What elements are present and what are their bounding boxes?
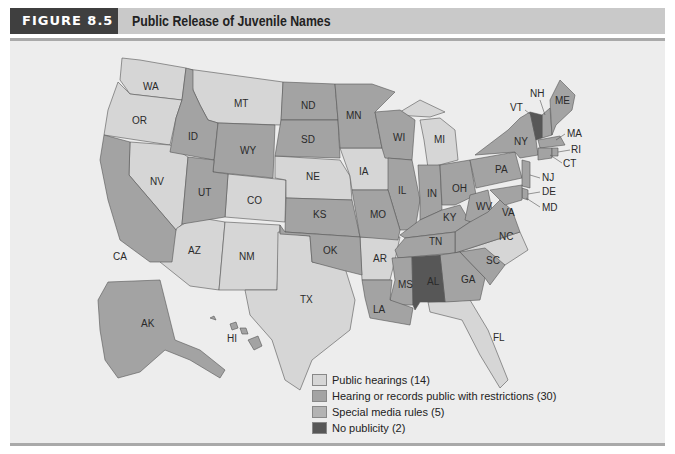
svg-text:FL: FL xyxy=(493,332,505,343)
svg-text:RI: RI xyxy=(571,144,581,155)
legend-swatch xyxy=(312,374,327,386)
legend-item-no-publicity: No publicity (2) xyxy=(312,420,556,435)
svg-text:OK: OK xyxy=(323,245,338,256)
bottom-rule xyxy=(10,443,665,446)
legend-swatch xyxy=(312,406,327,418)
svg-text:NV: NV xyxy=(150,176,164,187)
svg-text:MO: MO xyxy=(370,209,386,220)
svg-text:WV: WV xyxy=(476,201,492,212)
svg-text:ND: ND xyxy=(301,100,315,111)
svg-text:WA: WA xyxy=(143,81,159,92)
state-ny xyxy=(475,112,538,158)
svg-text:NY: NY xyxy=(514,136,528,147)
svg-text:IN: IN xyxy=(427,188,437,199)
state-de xyxy=(522,188,528,200)
svg-text:VA: VA xyxy=(502,207,515,218)
svg-text:MI: MI xyxy=(434,134,445,145)
legend-item-public-hearings: Public hearings (14) xyxy=(312,372,556,387)
legend-label: No publicity (2) xyxy=(332,422,405,434)
state-ak xyxy=(98,280,225,378)
svg-text:OR: OR xyxy=(132,115,147,126)
svg-text:DE: DE xyxy=(542,186,556,197)
svg-text:AZ: AZ xyxy=(188,245,201,256)
svg-text:UT: UT xyxy=(198,187,211,198)
svg-text:AL: AL xyxy=(427,276,440,287)
svg-text:MA: MA xyxy=(567,128,582,139)
svg-text:TN: TN xyxy=(429,236,442,247)
svg-text:WI: WI xyxy=(393,132,405,143)
svg-text:HI: HI xyxy=(227,333,237,344)
legend: Public hearings (14) Hearing or records … xyxy=(312,372,556,436)
svg-text:ID: ID xyxy=(188,131,198,142)
svg-text:GA: GA xyxy=(461,274,476,285)
figure-tag: FIGURE 8.5 xyxy=(10,8,118,34)
svg-text:CT: CT xyxy=(563,158,576,169)
svg-text:SC: SC xyxy=(486,255,500,266)
legend-item-restrictions: Hearing or records public with restricti… xyxy=(312,388,556,403)
svg-text:WY: WY xyxy=(240,145,256,156)
svg-text:MT: MT xyxy=(234,98,248,109)
legend-label: Public hearings (14) xyxy=(332,374,430,386)
state-ct xyxy=(538,148,552,160)
svg-text:NM: NM xyxy=(239,251,255,262)
svg-text:NE: NE xyxy=(306,171,320,182)
svg-text:MN: MN xyxy=(346,110,362,121)
state-ri xyxy=(552,148,558,156)
svg-text:ME: ME xyxy=(555,95,570,106)
svg-text:SD: SD xyxy=(301,134,315,145)
svg-text:CA: CA xyxy=(113,251,127,262)
legend-swatch xyxy=(312,422,327,434)
svg-text:KS: KS xyxy=(313,209,327,220)
svg-text:CO: CO xyxy=(247,195,262,206)
svg-text:MD: MD xyxy=(542,202,558,213)
legend-label: Hearing or records public with restricti… xyxy=(332,390,556,402)
svg-text:AR: AR xyxy=(373,253,387,264)
svg-text:KY: KY xyxy=(443,212,457,223)
svg-text:TX: TX xyxy=(300,294,313,305)
figure-title: Public Release of Juvenile Names xyxy=(132,8,331,34)
svg-text:MS: MS xyxy=(398,279,413,290)
svg-text:NJ: NJ xyxy=(542,172,554,183)
svg-text:IA: IA xyxy=(359,166,369,177)
svg-text:OH: OH xyxy=(452,183,467,194)
svg-text:NC: NC xyxy=(499,231,513,242)
svg-text:IL: IL xyxy=(398,185,407,196)
state-nj xyxy=(522,160,530,188)
svg-text:LA: LA xyxy=(373,304,386,315)
legend-item-special-media: Special media rules (5) xyxy=(312,404,556,419)
svg-text:PA: PA xyxy=(495,164,508,175)
svg-text:VT: VT xyxy=(510,102,523,113)
svg-text:AK: AK xyxy=(141,318,155,329)
svg-text:NH: NH xyxy=(530,88,544,99)
legend-swatch xyxy=(312,390,327,402)
state-md xyxy=(490,185,522,205)
figure-header: FIGURE 8.5 Public Release of Juvenile Na… xyxy=(10,8,665,34)
map-panel: WAORCA NVIDMT WYUTCO AZNMND SDNEKS OKTXM… xyxy=(10,41,665,443)
state-me xyxy=(550,80,575,135)
legend-label: Special media rules (5) xyxy=(332,406,445,418)
